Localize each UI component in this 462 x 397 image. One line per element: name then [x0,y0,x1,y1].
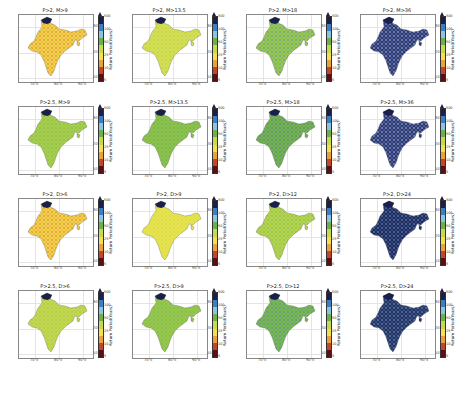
lon-label-70: 70°E [144,358,153,362]
lon-label-90: 90°E [78,82,87,86]
lon-label-70: 70°E [258,266,267,270]
colorbar-segment [441,31,445,38]
colorbar-tick: 5 [332,170,334,174]
colorbar-segment [99,229,103,236]
map-frame [360,198,436,267]
colorbar-segment [327,343,331,350]
colorbar-segment [327,258,331,265]
colorbar-segment [213,53,217,60]
colorbar-segment [327,321,331,328]
lon-label-80: 80°E [282,358,291,362]
colorbar-segment [99,53,103,60]
panel-title: P>2.5, D>24 [360,283,434,289]
lon-label-80: 80°E [168,266,177,270]
lon-label-70: 70°E [372,358,381,362]
colorbar-segment [441,336,445,343]
colorbar-segment [441,293,445,300]
colorbar-segment [99,152,103,159]
colorbar-tick: 500 [104,290,110,294]
lon-label-70: 70°E [30,174,39,178]
lon-label-80: 80°E [396,82,405,86]
colorbar-tick: 5 [104,354,106,358]
colorbar-segment [99,222,103,229]
lon-label-90: 90°E [192,358,201,362]
map-frame [360,106,436,175]
colorbar [326,292,332,358]
lon-label-90: 90°E [78,358,87,362]
colorbar [98,108,104,174]
colorbar-segment [327,152,331,159]
lon-label-90: 90°E [420,266,429,270]
colorbar-segment [213,314,217,321]
colorbar-segment [213,45,217,52]
lon-label-70: 70°E [258,82,267,86]
map-panel-1: P>2, M>9 30°N 20°N [4,6,118,96]
colorbar-segment [441,166,445,173]
colorbar [326,16,332,82]
colorbar-segment [327,67,331,74]
colorbar-segment [213,336,217,343]
colorbar-tick: 5 [218,354,220,358]
colorbar-segment [213,123,217,130]
colorbar-segment [99,237,103,244]
colorbar-segment [99,201,103,208]
colorbar-segment [213,31,217,38]
colorbar-segment [213,201,217,208]
colorbar-segment [327,251,331,258]
colorbar-segment [213,237,217,244]
colorbar-segment [441,67,445,74]
colorbar-tick: 5 [332,354,334,358]
colorbar-segment [327,123,331,130]
colorbar-segment [327,215,331,222]
lon-label-80: 80°E [282,266,291,270]
map-frame [246,14,322,83]
colorbar-segment [327,74,331,81]
colorbar-segment [99,215,103,222]
map-frame [246,198,322,267]
colorbar-segment [99,123,103,130]
colorbar-segment [213,222,217,229]
colorbar-segment [213,38,217,45]
colorbar-tick: 500 [332,106,338,110]
panel-title: P>2, D>12 [246,191,320,197]
lon-label-80: 80°E [168,82,177,86]
colorbar-segment [327,31,331,38]
panel-title: P>2.5, M>36 [360,99,434,105]
colorbar-segment [327,314,331,321]
colorbar-segment [327,24,331,31]
colorbar-segment [327,109,331,116]
colorbar-segment [327,208,331,215]
colorbar-segment [441,300,445,307]
colorbar-segment [327,244,331,251]
colorbar-segment [213,74,217,81]
colorbar-segment [441,251,445,258]
colorbar-label: Return Period(Years) [222,29,227,70]
colorbar-segment [99,116,103,123]
map-frame [18,290,94,359]
colorbar [212,200,218,266]
lon-label-90: 90°E [192,174,201,178]
colorbar-segment [213,24,217,31]
colorbar [98,200,104,266]
colorbar-segment [213,293,217,300]
colorbar-segment [213,244,217,251]
colorbar-segment [441,258,445,265]
colorbar-tick: 500 [446,106,452,110]
map-frame [246,106,322,175]
map-frame [360,290,436,359]
colorbar-segment [327,307,331,314]
colorbar-segment [441,307,445,314]
map-panel-5: P>2.5, M>9 30°N 20°N [4,98,118,188]
panel-title: P>2, M>9 [18,7,92,13]
lon-label-70: 70°E [30,82,39,86]
lon-label-80: 80°E [54,82,63,86]
india-map [247,15,321,82]
colorbar-segment [213,137,217,144]
lon-label-80: 80°E [168,174,177,178]
panel-title: P>2.5, D>12 [246,283,320,289]
map-panel-15: P>2.5, D>12 30°N 20° [232,282,346,372]
colorbar-segment [441,45,445,52]
india-map [19,291,93,358]
colorbar-segment [441,152,445,159]
lon-label-90: 90°E [420,82,429,86]
